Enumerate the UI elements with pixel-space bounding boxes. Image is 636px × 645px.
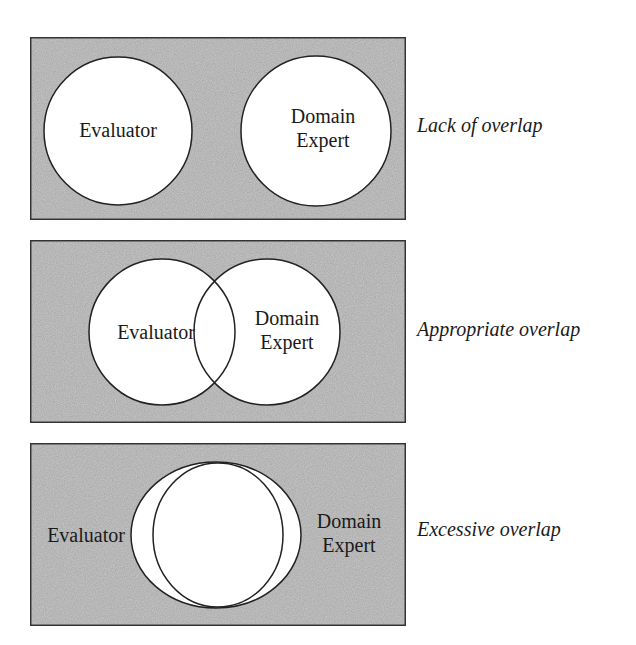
domain-expert-label-line2: Expert — [322, 534, 376, 557]
inner-overlap-circle — [153, 463, 283, 607]
caption-appropriate-overlap: Appropriate overlap — [417, 318, 580, 341]
domain-expert-label-line1: Domain — [291, 105, 355, 127]
caption-excessive-overlap: Excessive overlap — [417, 518, 561, 541]
domain-expert-label-line1: Domain — [317, 510, 381, 532]
panel-lack-of-overlap: Evaluator Domain Expert — [30, 37, 406, 219]
evaluator-label: Evaluator — [117, 321, 195, 343]
panel-appropriate-overlap: Evaluator Domain Expert — [30, 240, 406, 422]
venn-diagram-excessive-overlap: Evaluator Domain Expert — [30, 443, 406, 626]
venn-diagram-no-overlap: Evaluator Domain Expert — [30, 37, 406, 220]
evaluator-label: Evaluator — [79, 119, 157, 141]
caption-lack-of-overlap: Lack of overlap — [417, 114, 543, 137]
panel-excessive-overlap: Evaluator Domain Expert — [30, 443, 406, 625]
evaluator-label: Evaluator — [47, 524, 125, 546]
domain-expert-label-line2: Expert — [260, 331, 314, 354]
venn-diagram-partial-overlap: Evaluator Domain Expert — [30, 240, 406, 423]
domain-expert-label-line2: Expert — [296, 129, 350, 152]
domain-expert-label-line1: Domain — [255, 307, 319, 329]
